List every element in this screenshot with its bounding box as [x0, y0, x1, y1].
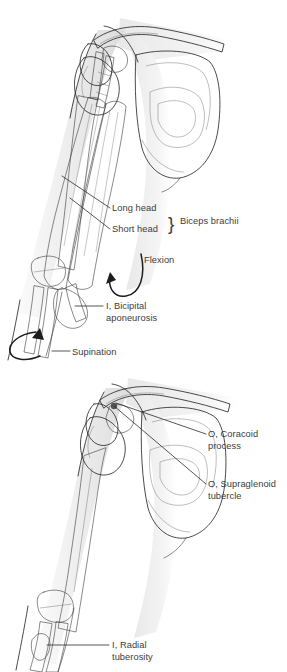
label-supination: Supination	[72, 347, 116, 357]
biceps-brachii-brace: }	[168, 213, 174, 234]
anatomy-plate: Long head Short head } Biceps brachii Fl…	[0, 0, 287, 672]
label-bicipital-aponeurosis-line1: I, Bicipital	[106, 301, 146, 311]
anatomy-illustration-svg: Long head Short head } Biceps brachii Fl…	[0, 0, 287, 672]
supination-arrow-icon	[10, 328, 44, 359]
label-radial-tuberosity-line2: tuberosity	[112, 652, 153, 662]
label-biceps-brachii: Biceps brachii	[180, 216, 239, 226]
label-coracoid-process-line2: process	[208, 441, 241, 451]
label-supraglenoid-tubercle-line2: tubercle	[208, 491, 241, 501]
label-long-head: Long head	[112, 203, 156, 213]
label-radial-tuberosity-line1: I, Radial	[112, 640, 147, 650]
lower-figure-labels: O, Coracoid process O, Supraglenoid tube…	[112, 429, 276, 662]
label-short-head: Short head	[112, 224, 158, 234]
label-supraglenoid-tubercle-line1: O, Supraglenoid	[208, 479, 276, 489]
label-coracoid-process-line1: O, Coracoid	[208, 429, 258, 439]
label-flexion: Flexion	[144, 255, 174, 265]
upper-figure-group: Long head Short head } Biceps brachii Fl…	[8, 18, 239, 360]
upper-figure-labels: Long head Short head } Biceps brachii Fl…	[72, 203, 239, 357]
label-bicipital-aponeurosis-line2: aponeurosis	[106, 313, 158, 323]
lower-figure-group: O, Coracoid process O, Supraglenoid tube…	[16, 378, 276, 672]
